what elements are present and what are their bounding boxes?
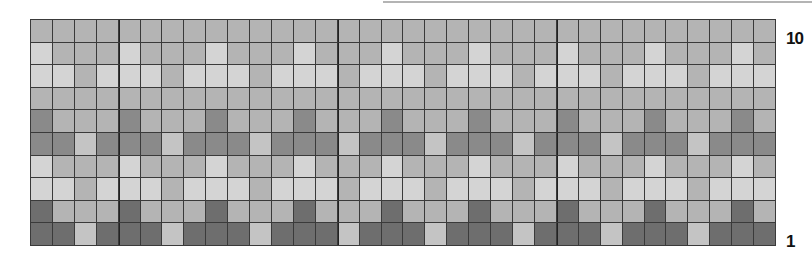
chart-cell [491,133,512,155]
chart-cell [491,223,512,245]
chart-cell [688,201,709,223]
chart-cell [623,88,644,110]
chart-cell [447,20,468,42]
chart-cell [184,223,205,245]
chart-cell [382,133,403,155]
chart-cell [316,20,337,42]
chart-cell [316,133,337,155]
chart-cell [469,65,490,87]
pattern-chart-grid [30,19,776,246]
chart-cell [360,110,381,132]
chart-cell [732,133,753,155]
chart-cell [535,110,556,132]
chart-cell [119,88,140,110]
chart-cell [447,133,468,155]
chart-cell [294,201,315,223]
chart-cell [53,133,74,155]
chart-cell [250,156,271,178]
chart-cell [425,178,446,200]
chart-cell [250,110,271,132]
chart-cell [491,178,512,200]
chart-cell [206,110,227,132]
chart-cell [53,20,74,42]
chart-cell [623,201,644,223]
chart-cell [579,133,600,155]
chart-cell [403,20,424,42]
chart-cell [338,201,359,223]
chart-cell [491,88,512,110]
chart-cell [97,178,118,200]
chart-cell [491,43,512,65]
chart-cell [141,65,162,87]
chart-cell [31,65,52,87]
chart-cell [623,43,644,65]
chart-cell [338,156,359,178]
chart-cell [382,110,403,132]
chart-cell [316,88,337,110]
chart-cell [732,201,753,223]
chart-cell [75,88,96,110]
chart-cell [338,178,359,200]
chart-cell [250,43,271,65]
chart-cell [75,20,96,42]
chart-cell [228,88,249,110]
chart-cell [206,178,227,200]
chart-cell [513,110,534,132]
chart-cell [382,20,403,42]
chart-cell [666,133,687,155]
chart-cell [645,43,666,65]
chart-cell [119,156,140,178]
chart-cell [491,110,512,132]
chart-cell [119,133,140,155]
chart-cell [557,178,578,200]
chart-cell [557,65,578,87]
chart-cell [184,178,205,200]
chart-cell [382,201,403,223]
chart-cell [31,201,52,223]
chart-cell [403,156,424,178]
chart-cell [97,20,118,42]
chart-cell [469,223,490,245]
chart-cell [294,65,315,87]
chart-cell [601,156,622,178]
chart-cell [119,178,140,200]
chart-cell [360,20,381,42]
chart-cell [141,88,162,110]
chart-cell [403,201,424,223]
chart-cell [31,43,52,65]
chart-cell [97,43,118,65]
chart-cell [206,20,227,42]
chart-cell [75,65,96,87]
chart-cell [360,133,381,155]
chart-cell [513,178,534,200]
chart-cell [162,178,183,200]
chart-cell [141,110,162,132]
chart-cell [141,20,162,42]
chart-cell [272,88,293,110]
chart-cell [425,43,446,65]
chart-cell [688,20,709,42]
chart-cell [53,43,74,65]
chart-cell [557,43,578,65]
chart-cell [666,110,687,132]
chart-cell [97,201,118,223]
chart-cell [294,110,315,132]
chart-cell [425,201,446,223]
chart-cell [666,20,687,42]
chart-cell [513,20,534,42]
chart-cell [601,178,622,200]
chart-cell [403,88,424,110]
chart-cell [447,178,468,200]
chart-cell [688,110,709,132]
chart-cell [228,156,249,178]
chart-cell [338,20,359,42]
chart-cell [97,133,118,155]
chart-cell [119,43,140,65]
chart-cell [250,133,271,155]
chart-cell [710,43,731,65]
chart-cell [162,43,183,65]
chart-cell [360,156,381,178]
chart-cell [557,156,578,178]
chart-cell [425,223,446,245]
chart-cell [75,156,96,178]
